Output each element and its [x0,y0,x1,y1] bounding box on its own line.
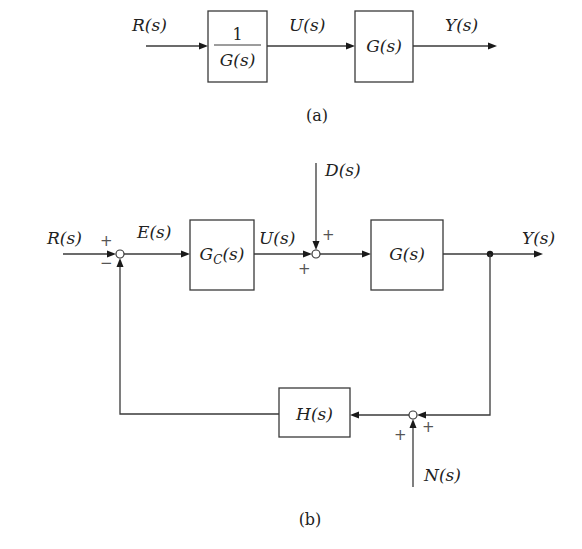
label-b-disturbance: D(s) [324,160,361,180]
sum1-sign-top: + [100,232,113,250]
label-b-output: Y(s) [522,228,555,248]
sum3-sign-left: + [394,426,407,444]
block-b-feedback-label: H(s) [295,404,333,424]
arrowhead-icon [303,251,312,258]
caption-b: (b) [299,510,322,529]
block-a-plant-label: G(s) [366,36,402,56]
caption-a: (a) [306,106,328,125]
arrowhead-icon [181,251,190,258]
arrowhead-icon [350,412,359,419]
block-a-inverse-plant [208,11,267,82]
sum2-sign-top: + [322,226,335,244]
summing-junction-1 [116,250,124,258]
arrowhead-icon [362,251,371,258]
diagram-a: R(s) 1 G(s) U(s) G(s) Y(s) (a) [131,11,497,125]
sum2-sign-bottom: + [298,260,311,278]
label-b-control: U(s) [259,228,295,248]
diagram-b: R(s) + − E(s) GC(s) U(s) D(s) + + G(s) [46,160,555,529]
arrowhead-icon [410,419,417,428]
block-a-inverse-plant-denominator: G(s) [220,50,256,70]
sum1-sign-bottom: − [100,254,113,272]
block-a-inverse-plant-numerator: 1 [232,25,242,44]
block-b-plant-label: G(s) [389,244,425,264]
arrowhead-icon [313,241,320,250]
arrowhead-icon [346,43,355,50]
summing-junction-3 [409,411,417,419]
block-b-controller-label: GC(s) [200,244,245,267]
arrowhead-icon [488,43,497,50]
arrowhead-icon [117,258,124,267]
label-b-error: E(s) [136,222,171,242]
sum3-sign-right: + [422,418,435,436]
block-diagram-canvas: R(s) 1 G(s) U(s) G(s) Y(s) (a) R(s) + − … [0,0,582,549]
summing-junction-2 [312,250,320,258]
label-a-u: U(s) [289,15,325,35]
label-a-output: Y(s) [445,15,478,35]
label-a-input: R(s) [131,15,167,35]
arrowhead-icon [534,251,543,258]
label-b-input: R(s) [46,228,82,248]
label-b-noise: N(s) [423,465,461,485]
arrowhead-icon [199,43,208,50]
